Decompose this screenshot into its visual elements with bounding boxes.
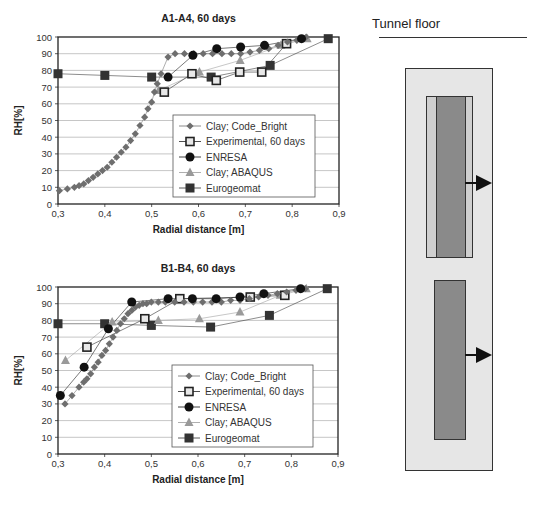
square-marker-icon <box>54 69 63 78</box>
bentonite-outer-block <box>406 69 493 471</box>
circle-marker-icon <box>188 51 197 60</box>
legend-item-label: Clay; ABAQUS <box>206 167 273 178</box>
diamond-marker-icon <box>144 105 151 112</box>
y-tick-label: 90 <box>41 298 52 309</box>
diamond-marker-icon <box>109 334 116 341</box>
circle-marker-icon <box>56 391 65 400</box>
x-tick-label: 0,8 <box>286 208 299 219</box>
y-tick-label: 20 <box>41 415 52 426</box>
x-tick-label: 0,3 <box>51 208 64 219</box>
charts-canvas: A1-A4, 60 days01020304050607080901000,30… <box>0 0 360 500</box>
y-axis-label: RH[%] <box>13 106 24 136</box>
y-tick-label: 90 <box>41 48 52 59</box>
y-tick-label: 70 <box>41 332 52 343</box>
circle-marker-icon <box>259 289 268 298</box>
chart-title: B1-B4, 60 days <box>161 262 236 274</box>
x-axis-label: Radial distance [m] <box>153 224 245 235</box>
square-marker-icon <box>206 323 215 332</box>
circle-marker-icon <box>104 324 113 333</box>
circle-marker-icon <box>236 43 245 52</box>
y-tick-label: 30 <box>41 398 52 409</box>
circle-marker-icon <box>164 73 173 82</box>
y-tick-label: 60 <box>41 98 52 109</box>
square-marker-icon <box>185 434 194 443</box>
x-tick-label: 0,4 <box>98 208 111 219</box>
open-square-marker-icon <box>212 76 220 84</box>
open-square-marker-icon <box>141 315 149 323</box>
diamond-marker-icon <box>95 359 102 366</box>
square-marker-icon <box>147 73 156 82</box>
y-tick-label: 40 <box>41 382 52 393</box>
chart-legend: Clay; Code_BrightExperimental, 60 daysEN… <box>172 365 313 447</box>
circle-marker-icon <box>260 41 269 50</box>
diamond-marker-icon <box>164 53 171 60</box>
circle-marker-icon <box>127 298 136 307</box>
legend-item-label: Clay; Code_Bright <box>206 121 287 132</box>
diamond-marker-icon <box>228 50 235 57</box>
x-tick-label: 0,9 <box>331 458 344 469</box>
y-tick-label: 80 <box>41 65 52 76</box>
legend-item-label: Eurogeomat <box>205 433 260 444</box>
y-tick-label: 60 <box>41 348 52 359</box>
x-tick-label: 0,7 <box>239 208 252 219</box>
y-tick-label: 20 <box>41 165 52 176</box>
circle-marker-icon <box>186 153 195 162</box>
y-tick-label: 100 <box>36 282 52 293</box>
diamond-marker-icon <box>132 130 139 137</box>
open-square-marker-icon <box>83 343 91 351</box>
square-marker-icon <box>186 184 195 193</box>
circle-marker-icon <box>164 294 173 303</box>
square-marker-icon <box>324 34 333 43</box>
open-square-marker-icon <box>188 70 196 78</box>
x-axis-label: Radial distance [m] <box>152 474 244 485</box>
square-marker-icon <box>100 71 109 80</box>
diamond-marker-icon <box>127 137 134 144</box>
circle-marker-icon <box>185 403 194 412</box>
x-tick-label: 0,9 <box>332 208 345 219</box>
y-tick-label: 50 <box>41 365 52 376</box>
diamond-marker-icon <box>157 70 164 77</box>
x-tick-label: 0,8 <box>285 458 298 469</box>
diamond-marker-icon <box>148 99 155 106</box>
open-square-marker-icon <box>186 138 194 146</box>
legend-item-label: ENRESA <box>206 152 247 163</box>
upper-heater-liner <box>427 97 473 258</box>
y-tick-label: 10 <box>41 182 52 193</box>
y-tick-label: 10 <box>41 432 52 443</box>
legend-item-label: Clay; Code_Bright <box>205 371 286 382</box>
diamond-marker-icon <box>91 364 98 371</box>
diamond-marker-icon <box>98 352 105 359</box>
tunnel-floor-line <box>379 37 527 38</box>
circle-marker-icon <box>236 293 245 302</box>
open-square-marker-icon <box>236 68 244 76</box>
x-tick-label: 0,3 <box>51 458 64 469</box>
y-tick-label: 40 <box>41 132 52 143</box>
diamond-marker-icon <box>141 114 148 121</box>
circle-marker-icon <box>212 294 221 303</box>
x-tick-label: 0,6 <box>192 208 205 219</box>
legend-item-label: Clay; ABAQUS <box>205 417 272 428</box>
diamond-marker-icon <box>87 370 94 377</box>
y-tick-label: 30 <box>41 148 52 159</box>
y-tick-label: 100 <box>36 32 52 43</box>
square-marker-icon <box>54 319 63 328</box>
upper-heater-canister <box>437 97 466 258</box>
y-axis-label: RH[%] <box>13 356 24 386</box>
diamond-marker-icon <box>246 48 253 55</box>
y-tick-label: 50 <box>41 115 52 126</box>
circle-marker-icon <box>297 34 306 43</box>
diamond-marker-icon <box>171 50 178 57</box>
circle-marker-icon <box>212 44 221 53</box>
y-tick-label: 70 <box>41 82 52 93</box>
circle-marker-icon <box>188 294 197 303</box>
diamond-marker-icon <box>102 347 109 354</box>
x-tick-label: 0,6 <box>191 458 204 469</box>
x-tick-label: 0,5 <box>145 208 158 219</box>
square-marker-icon <box>323 284 332 293</box>
diamond-marker-icon <box>64 185 71 192</box>
diamond-marker-icon <box>113 327 120 334</box>
diamond-marker-icon <box>199 298 206 305</box>
x-tick-label: 0,4 <box>98 458 111 469</box>
lower-heater-canister <box>435 281 466 440</box>
triangle-marker-icon <box>154 315 163 324</box>
